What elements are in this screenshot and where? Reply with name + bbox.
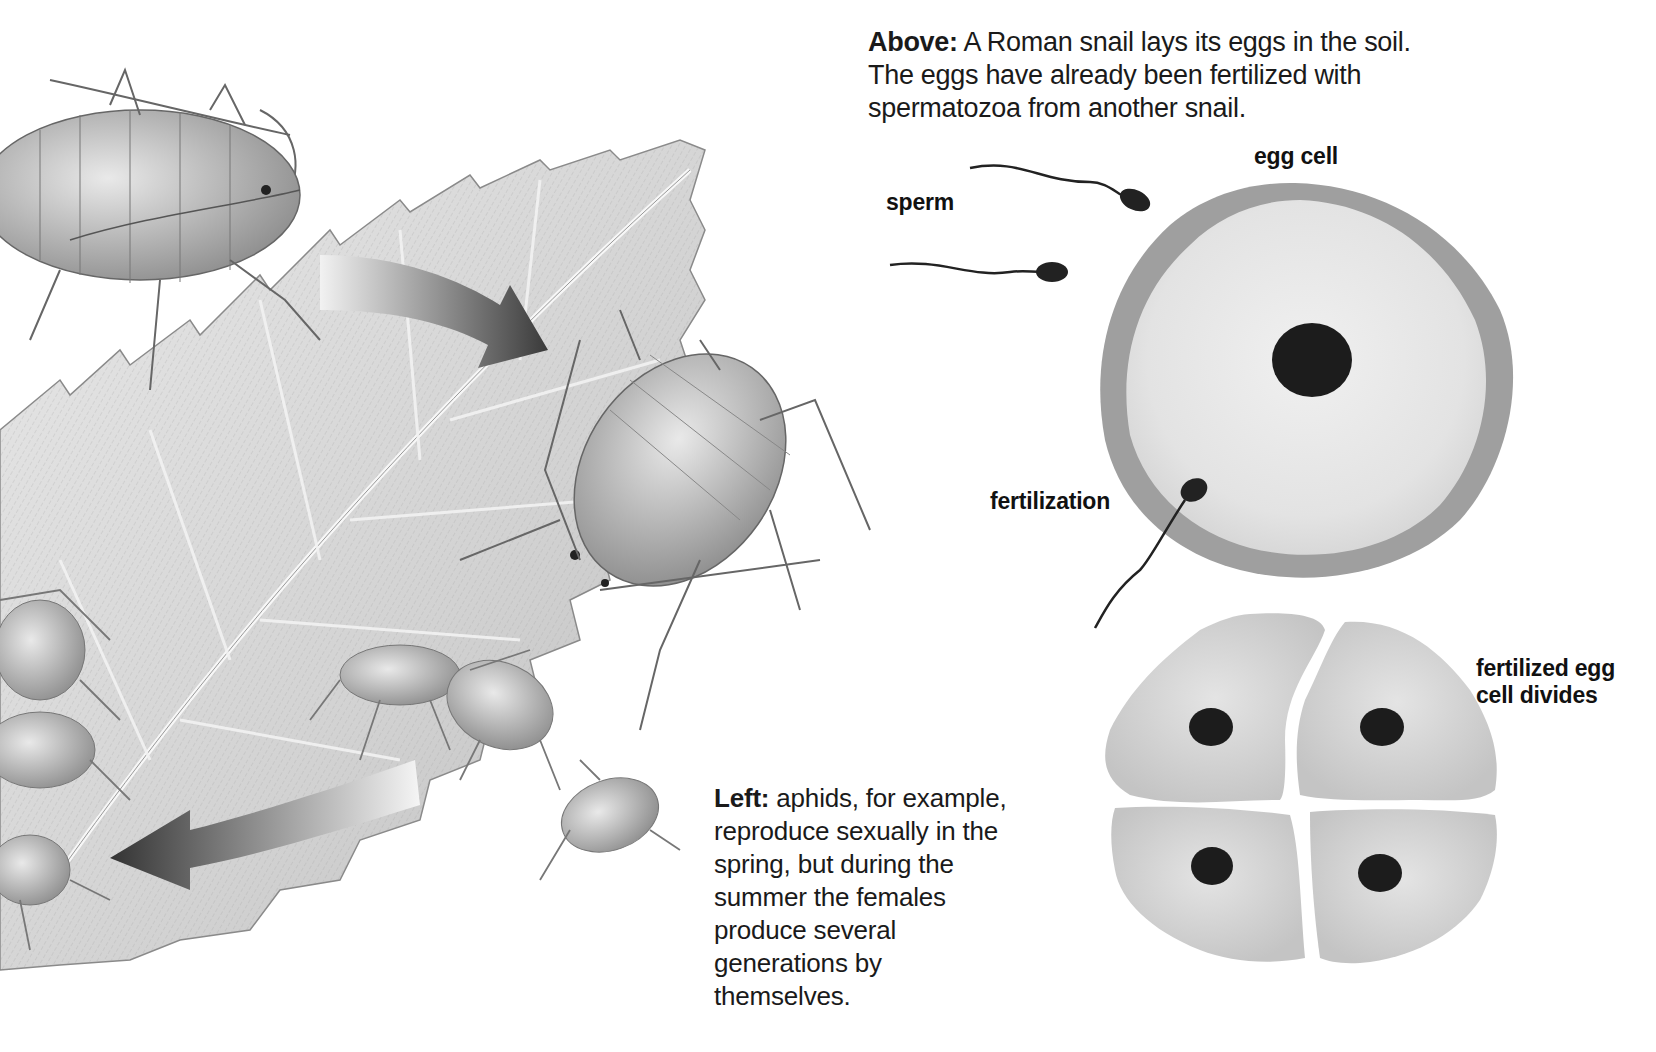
egg-cell-icon <box>1100 183 1513 578</box>
caption-left-text: aphids, for example, reproduce sexually … <box>714 783 1006 1011</box>
label-fertilized-line1: fertilized egg <box>1476 655 1615 682</box>
divided-cell-icon <box>1105 613 1497 963</box>
caption-above: Above: A Roman snail lays its eggs in th… <box>868 26 1428 125</box>
caption-left: Left: aphids, for example, reproduce sex… <box>714 782 1014 1013</box>
label-fertilized-line2: cell divides <box>1476 682 1615 709</box>
label-sperm: sperm <box>886 189 954 216</box>
label-fertilized-egg: fertilized egg cell divides <box>1476 655 1615 709</box>
caption-above-lead: Above: <box>868 27 958 57</box>
sperm-icon <box>890 166 1154 282</box>
nucleus <box>1272 323 1352 397</box>
label-fertilization: fertilization <box>990 488 1110 515</box>
caption-left-lead: Left: <box>714 783 769 813</box>
label-egg-cell: egg cell <box>1254 143 1338 170</box>
